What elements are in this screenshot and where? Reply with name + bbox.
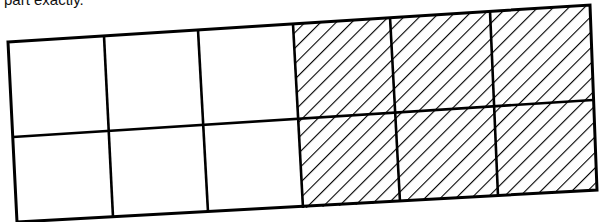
shaded-region xyxy=(293,5,597,208)
fraction-grid-figure xyxy=(0,0,599,222)
